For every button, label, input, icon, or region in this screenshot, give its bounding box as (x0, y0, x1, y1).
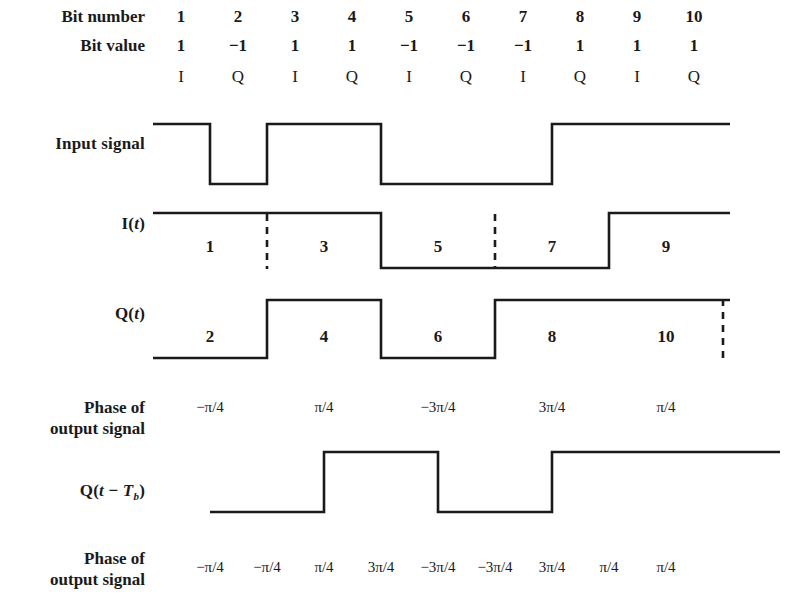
q-delayed-label-prefix: Q( (80, 481, 99, 500)
bit-value-row-label: Bit value (10, 37, 145, 54)
bit-value-cell: −1 (457, 37, 475, 54)
bit-value-cell: 1 (177, 37, 186, 54)
i-segment-label: 9 (662, 238, 671, 255)
phase-row-2-label: Phase of output signal (10, 548, 145, 591)
phase-row-1-label-line2: output signal (10, 418, 145, 439)
bit-channel-cell: I (178, 68, 184, 85)
phase-row-2-label-line2: output signal (10, 569, 145, 590)
bit-number-cell: 6 (462, 8, 471, 25)
phase-value-row1: π/4 (314, 400, 333, 415)
bit-number-cell: 1 (177, 8, 186, 25)
bit-number-cell: 3 (291, 8, 300, 25)
phase-row-1-label-line1: Phase of (10, 397, 145, 418)
bit-number-cell: 10 (686, 8, 703, 25)
phase-value-row2: −π/4 (253, 560, 281, 575)
bit-channel-cell: Q (574, 68, 586, 85)
q-signal-label-prefix: Q( (115, 304, 134, 323)
bit-channel-cell: Q (232, 68, 244, 85)
bit-channel-cell: I (634, 68, 640, 85)
i-segment-label: 5 (434, 238, 443, 255)
phase-value-row1: −3π/4 (420, 400, 455, 415)
q-delayed-label-suffix: ) (139, 481, 145, 500)
q-delayed-waveform (210, 452, 780, 512)
bit-value-cell: −1 (514, 37, 532, 54)
bit-number-cell: 4 (348, 8, 357, 25)
bit-value-cell: 1 (690, 37, 699, 54)
phase-row-2-label-line1: Phase of (10, 548, 145, 569)
bit-value-cell: 1 (348, 37, 357, 54)
bit-channel-cell: I (292, 68, 298, 85)
bit-number-row-label: Bit number (10, 8, 145, 25)
q-delayed-row-label: Q(t − Tb) (10, 482, 145, 502)
phase-value-row2: 3π/4 (539, 560, 566, 575)
phase-row-1-label: Phase of output signal (10, 397, 145, 440)
phase-value-row1: 3π/4 (539, 400, 566, 415)
phase-value-row2: 3π/4 (368, 560, 395, 575)
phase-value-row2: π/4 (656, 560, 675, 575)
i-signal-label-prefix: I( (122, 214, 135, 233)
q-segment-label: 8 (548, 328, 557, 345)
i-signal-label-suffix: ) (139, 214, 145, 233)
bit-number-cell: 5 (405, 8, 414, 25)
q-segment-label: 2 (206, 328, 215, 345)
bit-channel-cell: Q (688, 68, 700, 85)
bit-value-cell: 1 (576, 37, 585, 54)
i-signal-row-label: I(t) (10, 215, 145, 232)
input-signal-waveform (153, 124, 730, 184)
q-segment-label: 6 (434, 328, 443, 345)
bit-number-cell: 7 (519, 8, 528, 25)
q-signal-label-suffix: ) (139, 304, 145, 323)
input-signal-row-label: Input signal (10, 135, 145, 152)
i-segment-label: 7 (548, 238, 557, 255)
bit-number-cell: 2 (234, 8, 243, 25)
phase-value-row2: −3π/4 (477, 560, 512, 575)
q-segment-label: 4 (320, 328, 329, 345)
i-segment-label: 3 (320, 238, 329, 255)
bit-number-cell: 9 (633, 8, 642, 25)
bit-value-cell: 1 (291, 37, 300, 54)
phase-value-row1: −π/4 (196, 400, 224, 415)
oqpsk-waveform-diagram: Bit number Bit value 11I2−1Q31I41Q5−1I6−… (0, 0, 811, 611)
bit-channel-cell: Q (460, 68, 472, 85)
phase-value-row2: π/4 (314, 560, 333, 575)
phase-value-row2: π/4 (599, 560, 618, 575)
phase-value-row1: π/4 (656, 400, 675, 415)
bit-channel-cell: I (406, 68, 412, 85)
i-segment-label: 1 (206, 238, 215, 255)
q-segment-label: 10 (658, 328, 675, 345)
bit-value-cell: −1 (400, 37, 418, 54)
bit-channel-cell: I (520, 68, 526, 85)
phase-value-row2: −π/4 (196, 560, 224, 575)
bit-value-cell: 1 (633, 37, 642, 54)
q-delayed-label-minus: − (104, 481, 123, 500)
bit-channel-cell: Q (346, 68, 358, 85)
q-signal-row-label: Q(t) (10, 305, 145, 322)
phase-value-row2: −3π/4 (420, 560, 455, 575)
q-delayed-label-var2: T (123, 481, 134, 500)
bit-value-cell: −1 (229, 37, 247, 54)
bit-number-cell: 8 (576, 8, 585, 25)
